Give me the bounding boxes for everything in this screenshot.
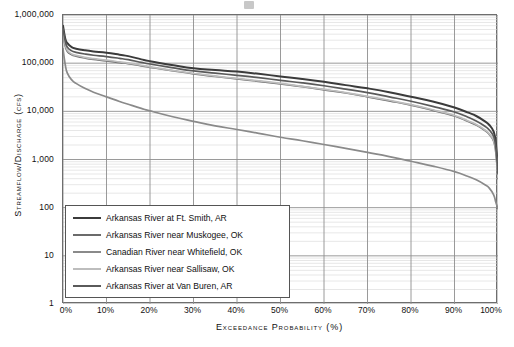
curve-0 bbox=[63, 26, 498, 171]
curve-2 bbox=[63, 49, 498, 209]
legend-swatch-line-icon bbox=[73, 268, 101, 270]
legend-item-label: Arkansas River at Van Buren, AR bbox=[106, 281, 232, 291]
legend-swatch-line-icon bbox=[73, 217, 101, 219]
legend-item-label: Arkansas River at Ft. Smith, AR bbox=[106, 213, 227, 223]
y-tick-0: 1,000,000 bbox=[14, 9, 54, 19]
legend: Arkansas River at Ft. Smith, ARArkansas … bbox=[65, 205, 290, 298]
y-tick-6: 1 bbox=[49, 298, 54, 308]
x-tick-10: 100% bbox=[480, 305, 502, 315]
legend-swatch-line-icon bbox=[73, 285, 101, 287]
x-tick-6: 60% bbox=[314, 305, 331, 315]
x-tick-3: 30% bbox=[184, 305, 201, 315]
y-tick-3: 1,000 bbox=[32, 154, 54, 164]
x-tick-1: 10% bbox=[97, 305, 114, 315]
x-tick-2: 20% bbox=[140, 305, 157, 315]
legend-item: Arkansas River near Sallisaw, OK bbox=[69, 260, 285, 277]
y-axis-tick-labels: 1,000,000100,00010,0001,000100101 bbox=[0, 14, 58, 303]
flow-duration-chart: Streamflow/Discharge (cfs) 1,000,000100,… bbox=[0, 0, 514, 347]
legend-item: Arkansas River near Muskogee, OK bbox=[69, 226, 285, 243]
x-axis-tick-labels: 0%10%20%30%40%50%60%70%80%90%100% bbox=[62, 305, 497, 319]
legend-swatch-line-icon bbox=[73, 251, 101, 253]
legend-item-label: Arkansas River near Muskogee, OK bbox=[106, 230, 243, 240]
legend-item: Canadian River near Whitefield, OK bbox=[69, 243, 285, 260]
legend-item: Arkansas River at Van Buren, AR bbox=[69, 277, 285, 294]
y-tick-1: 100,000 bbox=[22, 57, 54, 67]
x-tick-0: 0% bbox=[60, 305, 72, 315]
title-artifact bbox=[244, 1, 254, 9]
x-axis-title: Exceedance Probability (%) bbox=[62, 322, 497, 332]
legend-swatch-line-icon bbox=[73, 234, 101, 236]
legend-item-label: Canadian River near Whitefield, OK bbox=[106, 247, 242, 257]
x-tick-5: 50% bbox=[271, 305, 288, 315]
x-tick-8: 80% bbox=[401, 305, 418, 315]
x-tick-4: 40% bbox=[227, 305, 244, 315]
legend-item: Arkansas River at Ft. Smith, AR bbox=[69, 209, 285, 226]
x-tick-7: 70% bbox=[358, 305, 375, 315]
y-tick-2: 10,000 bbox=[27, 105, 54, 115]
legend-item-label: Arkansas River near Sallisaw, OK bbox=[106, 264, 234, 274]
x-tick-9: 90% bbox=[445, 305, 462, 315]
y-tick-5: 10 bbox=[44, 250, 54, 260]
y-tick-4: 100 bbox=[39, 202, 54, 212]
